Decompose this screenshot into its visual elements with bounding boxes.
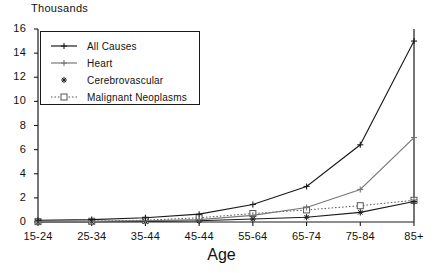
x-tick-label: 15-24 — [23, 230, 52, 242]
x-tick-label: 65-74 — [292, 230, 321, 242]
y-axis-unit-label: Thousands — [31, 2, 88, 14]
legend-label: Heart — [87, 58, 112, 69]
x-axis-title: Age — [0, 246, 443, 264]
legend-swatch-square-icon — [49, 90, 79, 104]
x-tick-label: 35-44 — [131, 230, 160, 242]
legend-item-cerebrovascular[interactable]: Cerebrovascular — [49, 72, 163, 88]
legend-swatch-star-icon — [49, 73, 79, 87]
x-tick-label: 75-84 — [346, 230, 375, 242]
x-tick-label: 25-34 — [77, 230, 106, 242]
chart-legend: All CausesHeartCerebrovascularMalignant … — [40, 31, 200, 105]
legend-swatch-plus-icon — [49, 56, 79, 70]
x-tick-label: 55-64 — [238, 230, 267, 242]
legend-label: All Causes — [87, 41, 137, 52]
y-tick-label: 14 — [6, 46, 26, 58]
legend-item-malignant-neoplasms[interactable]: Malignant Neoplasms — [49, 89, 187, 105]
x-tick-label: 85+ — [404, 230, 423, 242]
y-tick-label: 2 — [6, 191, 26, 203]
y-tick-label: 12 — [6, 70, 26, 82]
y-tick-label: 6 — [6, 143, 26, 155]
y-tick-label: 8 — [6, 119, 26, 131]
y-tick-label: 0 — [6, 215, 26, 227]
legend-label: Malignant Neoplasms — [87, 92, 187, 103]
series-heart — [35, 135, 417, 225]
legend-label: Cerebrovascular — [87, 75, 163, 86]
y-tick-label: 16 — [6, 22, 26, 34]
legend-item-heart[interactable]: Heart — [49, 55, 112, 71]
legend-item-all-causes[interactable]: All Causes — [49, 38, 137, 54]
y-tick-label: 10 — [6, 94, 26, 106]
x-tick-label: 45-44 — [185, 230, 214, 242]
y-tick-label: 4 — [6, 167, 26, 179]
legend-swatch-plus-icon — [49, 39, 79, 53]
line-chart: Thousands 0246810121416 15-2425-3435-444… — [0, 0, 443, 273]
